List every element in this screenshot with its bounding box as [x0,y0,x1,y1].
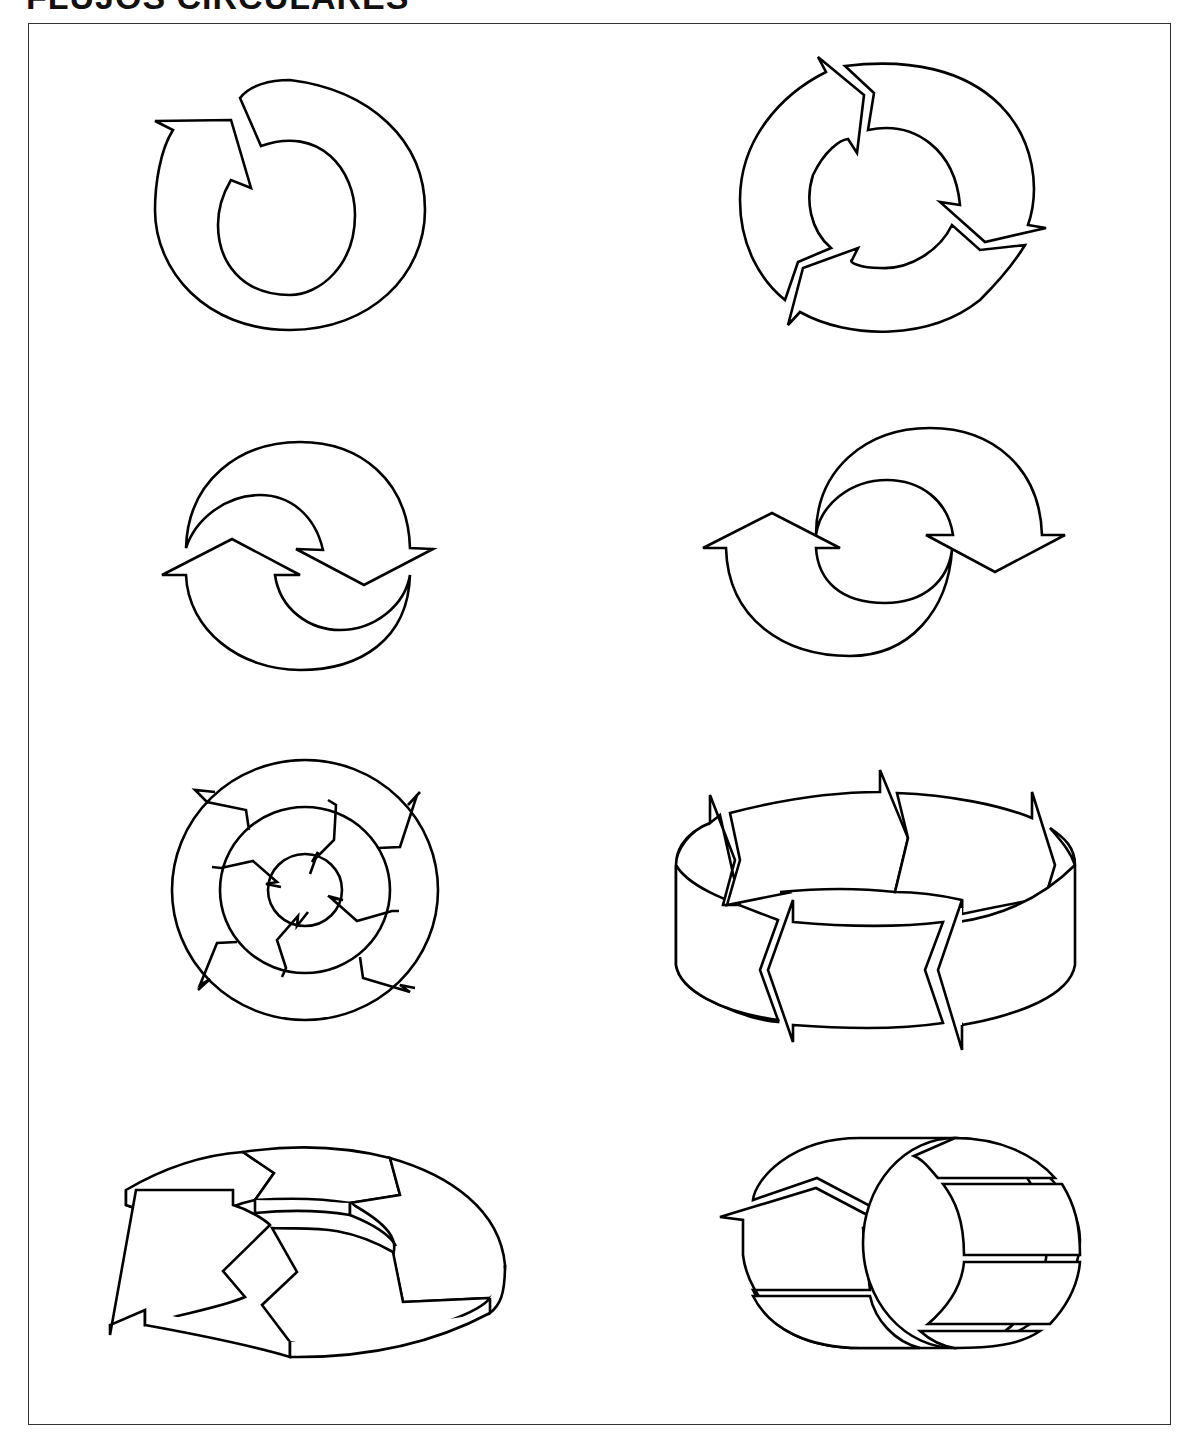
concentric-arrow-rings-icon [160,750,450,1030]
arrow-tube-icon [700,1120,1100,1360]
page-title: FLUJOS CIRCULARES [26,0,409,17]
three-arrow-ring-icon [730,50,1060,340]
3d-segmented-ring-icon [100,1130,520,1360]
two-arrow-swirl-wide-icon [690,420,1080,670]
single-arrow-ring-icon [140,90,440,330]
two-arrow-swirl-icon [150,420,450,670]
arrow-band-cylinder-icon [660,730,1090,1060]
